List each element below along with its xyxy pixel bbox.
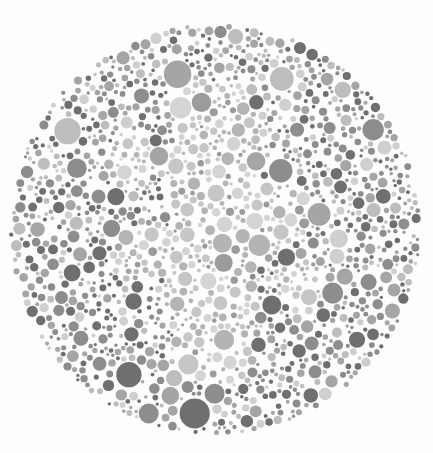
plate-dot-background (236, 45, 242, 51)
plate-dot-background (373, 158, 377, 162)
plate-dot-figure (121, 152, 127, 158)
plate-dot-background (109, 313, 113, 317)
plate-dot-background (30, 222, 45, 237)
plate-dot-figure (214, 139, 218, 143)
plate-dot-background (160, 212, 170, 222)
plate-dot-figure (235, 367, 239, 371)
plate-dot-background (36, 277, 43, 284)
plate-dot-background (344, 217, 348, 221)
plate-dot-background (185, 25, 190, 30)
plate-dot-background (290, 38, 294, 42)
plate-dot-background (139, 113, 146, 120)
plate-dot-background (400, 255, 407, 262)
plate-dot-background (346, 344, 350, 348)
plate-dot-background (294, 57, 300, 63)
plate-dot-background (314, 150, 318, 154)
plate-dot-background (150, 147, 168, 165)
plate-dot-background (299, 359, 302, 362)
plate-dot-background (108, 402, 111, 405)
plate-dot-background (143, 56, 147, 60)
plate-dot-background (233, 75, 238, 80)
plate-dot-background (95, 210, 100, 215)
plate-dot-background (105, 308, 110, 313)
plate-dot-background (125, 399, 130, 404)
plate-dot-background (308, 80, 313, 85)
plate-dot-background (364, 183, 370, 189)
plate-dot-background (250, 274, 256, 280)
plate-dot-background (320, 170, 327, 177)
plate-dot-background (43, 218, 47, 222)
plate-dot-background (362, 119, 383, 140)
plate-dot-background (345, 324, 349, 328)
plate-dot-background (67, 350, 79, 362)
plate-dot-figure (217, 152, 222, 157)
plate-dot-background (240, 429, 244, 433)
plate-dot-figure (210, 371, 217, 378)
plate-dot-background (376, 264, 379, 267)
plate-dot-background (312, 105, 316, 109)
plate-dot-figure (290, 287, 294, 291)
plate-dot-background (89, 176, 92, 179)
plate-dot-figure (188, 177, 200, 189)
plate-dot-background (263, 93, 271, 101)
plate-dot-background (274, 416, 282, 424)
plate-dot-figure (190, 135, 196, 141)
plate-dot-background (346, 364, 352, 370)
plate-dot-background (177, 427, 180, 430)
plate-dot-background (39, 188, 46, 195)
plate-dot-background (354, 98, 361, 105)
plate-dot-background (412, 214, 421, 223)
plate-dot-figure (212, 208, 221, 217)
plate-dot-figure (227, 285, 231, 289)
plate-dot-background (299, 147, 302, 150)
plate-dot-background (415, 208, 420, 213)
plate-dot-background (293, 314, 302, 323)
plate-dot-figure (232, 123, 245, 136)
plate-dot-background (327, 248, 330, 251)
plate-dot-background (149, 195, 154, 200)
plate-dot-background (250, 405, 262, 417)
plate-dot-background (322, 133, 325, 136)
plate-dot-background (358, 105, 363, 110)
plate-dot-background (90, 287, 96, 293)
plate-dot-background (263, 393, 269, 399)
plate-dot-background (28, 156, 32, 160)
plate-dot-background (144, 321, 148, 325)
plate-dot-background (47, 145, 51, 149)
plate-dot-figure (195, 254, 200, 259)
plate-dot-figure (227, 195, 232, 200)
plate-dot-background (336, 66, 341, 71)
plate-dot-background (81, 278, 84, 281)
plate-dot-background (218, 426, 221, 429)
plate-dot-background (271, 110, 277, 116)
plate-dot-background (368, 141, 373, 146)
plate-dot-background (353, 370, 358, 375)
plate-dot-background (328, 86, 332, 90)
plate-dot-background (232, 425, 236, 429)
plate-dot-figure (243, 309, 249, 315)
plate-dot-figure (164, 292, 170, 298)
plate-dot-background (337, 112, 342, 117)
plate-dot-background (134, 410, 137, 413)
plate-dot-figure (182, 247, 190, 255)
plate-dot-background (198, 70, 205, 77)
plate-dot-background (290, 116, 296, 122)
plate-dot-background (264, 414, 268, 418)
plate-dot-background (123, 111, 128, 116)
plate-dot-background (269, 159, 292, 182)
plate-dot-background (19, 273, 28, 282)
plate-dot-background (293, 241, 300, 248)
plate-dot-figure (193, 285, 199, 291)
plate-dot-background (360, 90, 364, 94)
plate-dot-background (116, 362, 141, 387)
plate-dot-background (333, 340, 343, 350)
plate-dot-background (381, 225, 385, 229)
plate-dot-background (116, 389, 127, 400)
plate-dot-background (132, 126, 137, 131)
plate-dot-background (334, 154, 342, 162)
plate-dot-figure (202, 264, 205, 267)
plate-dot-background (76, 374, 79, 377)
plate-dot-background (353, 263, 359, 269)
plate-dot-background (353, 164, 356, 167)
plate-dot-figure (180, 228, 195, 243)
